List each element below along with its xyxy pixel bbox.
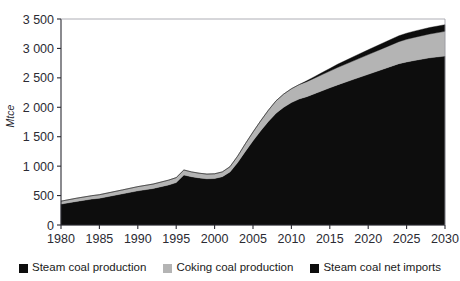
y-tick-label: 3 000 (23, 42, 54, 56)
legend-item-label: Steam coal net imports (323, 262, 441, 274)
legend-swatch-icon (163, 264, 172, 273)
legend-item-steam-coal-net-imports[interactable]: Steam coal net imports (310, 262, 441, 274)
y-tick-label: 1 500 (23, 130, 54, 144)
x-tick-label: 2010 (277, 232, 305, 246)
y-tick-label: 500 (33, 189, 54, 203)
legend-item-label: Steam coal production (32, 262, 146, 274)
y-tick-label: 2 000 (23, 101, 54, 115)
figure-stacked-area-chart: 05001 0001 5002 0002 5003 0003 500198019… (0, 0, 460, 281)
x-tick-label: 2015 (316, 232, 344, 246)
y-tick-label: 1 000 (23, 160, 54, 174)
legend-item-label: Coking coal production (176, 262, 293, 274)
x-tick-label: 2000 (201, 232, 229, 246)
legend-swatch-icon (310, 264, 319, 273)
y-tick-label: 3 500 (23, 13, 54, 27)
x-tick-label: 1985 (85, 232, 113, 246)
legend-swatch-icon (19, 264, 28, 273)
x-tick-label: 2005 (239, 232, 267, 246)
chart-svg: 05001 0001 5002 0002 5003 0003 500198019… (0, 0, 460, 255)
y-axis-title: Mtce (4, 105, 16, 128)
plot-area: 05001 0001 5002 0002 5003 0003 500198019… (0, 0, 460, 255)
x-tick-label: 1980 (47, 232, 75, 246)
series-areas (61, 25, 445, 225)
y-tick-label: 2 500 (23, 71, 54, 85)
chart-legend: Steam coal production Coking coal produc… (0, 258, 460, 278)
x-tick-label: 1990 (124, 232, 152, 246)
legend-item-coking-coal-production[interactable]: Coking coal production (163, 262, 293, 274)
x-tick-label: 2020 (354, 232, 382, 246)
axis-titles: Mtce (4, 105, 16, 128)
x-tick-label: 2030 (431, 232, 459, 246)
x-tick-label: 1995 (162, 232, 190, 246)
y-tick-label: 0 (47, 219, 54, 233)
legend-item-steam-coal-production[interactable]: Steam coal production (19, 262, 146, 274)
x-tick-label: 2025 (393, 232, 421, 246)
